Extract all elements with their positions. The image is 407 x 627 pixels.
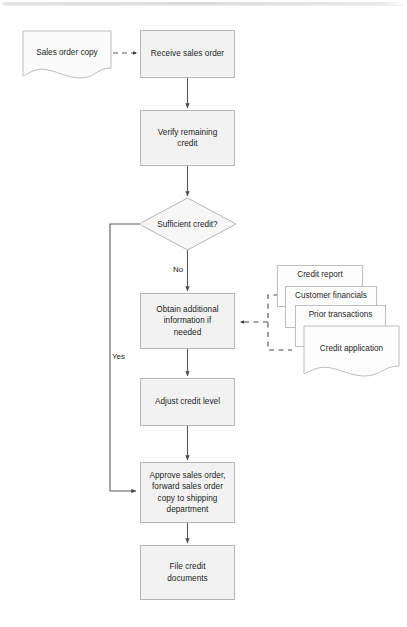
node-adjust-credit-level[interactable]: Adjust credit level bbox=[140, 378, 235, 426]
node-source-document-prior-transactions-label: Prior transactions bbox=[309, 310, 373, 319]
node-approve-sales-order-label: Approve sales order, forward sales order… bbox=[149, 470, 225, 516]
flowchart-canvas: Sales order copy Receive sales order Ver… bbox=[0, 0, 407, 627]
node-sales-order-copy-label: Sales order copy bbox=[22, 47, 112, 58]
node-verify-remaining-credit-label: Verify remaining credit bbox=[158, 127, 218, 150]
node-source-document-credit-application[interactable]: Credit application bbox=[303, 325, 400, 380]
node-source-document-customer-financials-label: Customer financials bbox=[295, 291, 367, 300]
node-receive-sales-order[interactable]: Receive sales order bbox=[140, 30, 235, 78]
node-source-document-credit-application-label: Credit application bbox=[303, 343, 400, 354]
edge-label-no: No bbox=[173, 265, 183, 275]
node-sales-order-copy[interactable]: Sales order copy bbox=[22, 30, 112, 82]
node-sufficient-credit-decision[interactable]: Sufficient credit? bbox=[138, 197, 237, 251]
node-obtain-additional-information-label: Obtain additional information if needed bbox=[156, 304, 218, 339]
edge-label-yes: Yes bbox=[112, 352, 125, 362]
node-approve-sales-order[interactable]: Approve sales order, forward sales order… bbox=[140, 462, 235, 523]
node-receive-sales-order-label: Receive sales order bbox=[151, 48, 224, 60]
node-source-document-credit-report-label: Credit report bbox=[297, 270, 343, 279]
node-file-credit-documents-label: File credit documents bbox=[167, 561, 208, 584]
node-verify-remaining-credit[interactable]: Verify remaining credit bbox=[140, 110, 235, 166]
node-adjust-credit-level-label: Adjust credit level bbox=[155, 396, 220, 408]
node-file-credit-documents[interactable]: File credit documents bbox=[140, 545, 235, 600]
node-obtain-additional-information[interactable]: Obtain additional information if needed bbox=[140, 293, 235, 349]
page-edge-line bbox=[3, 5, 404, 6]
node-sufficient-credit-label: Sufficient credit? bbox=[138, 197, 237, 251]
